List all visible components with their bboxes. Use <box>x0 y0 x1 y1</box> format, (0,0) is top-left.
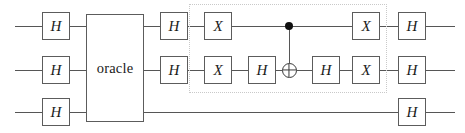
gate-h-qubit1-g4[interactable]: H <box>160 56 188 84</box>
quantum-circuit-diagram: oracle HHHHHXXHHXXHHH <box>0 0 465 133</box>
cnot-target-icon[interactable] <box>282 63 297 78</box>
gate-x-qubit0-g5[interactable]: X <box>204 12 232 40</box>
wire-qubit-2 <box>15 112 455 113</box>
gate-h-qubit0-g0[interactable]: H <box>42 12 70 40</box>
wire-qubit-1 <box>15 70 455 71</box>
gate-x-qubit1-g10[interactable]: X <box>352 56 380 84</box>
gate-h-qubit0-g3[interactable]: H <box>160 12 188 40</box>
gate-h-qubit1-g8[interactable]: H <box>312 56 340 84</box>
wire-qubit-0 <box>15 26 455 27</box>
gate-x-qubit0-g9[interactable]: X <box>352 12 380 40</box>
gate-h-qubit2-g2[interactable]: H <box>42 98 70 126</box>
gate-h-qubit1-g1[interactable]: H <box>42 56 70 84</box>
gate-h-qubit1-g12[interactable]: H <box>398 56 426 84</box>
oracle-gate[interactable]: oracle <box>86 14 144 122</box>
cnot-control-dot[interactable] <box>285 22 293 30</box>
gate-x-qubit1-g6[interactable]: X <box>204 56 232 84</box>
gate-h-qubit0-g11[interactable]: H <box>398 12 426 40</box>
gate-h-qubit2-g13[interactable]: H <box>398 98 426 126</box>
cnot-target-horizontal-stroke <box>283 69 296 70</box>
gate-h-qubit1-g7[interactable]: H <box>248 56 276 84</box>
